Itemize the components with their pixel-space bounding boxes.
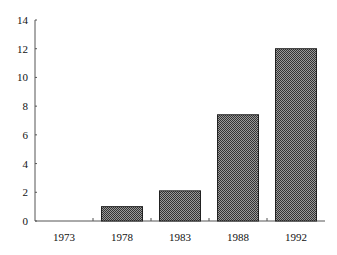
x-tick-label: 1973 [53, 231, 76, 243]
bar-1992 [276, 49, 317, 221]
x-axis: 19731978198319881992 [35, 218, 325, 243]
x-tick-label: 1992 [285, 231, 307, 243]
y-tick-label: 0 [23, 215, 29, 227]
y-tick-label: 12 [17, 43, 28, 55]
bar-1978 [102, 207, 143, 221]
y-tick-label: 6 [23, 129, 29, 141]
y-tick-label: 2 [23, 186, 29, 198]
x-tick-label: 1988 [227, 231, 250, 243]
y-tick-label: 10 [17, 71, 29, 83]
bar-1983 [160, 191, 201, 221]
y-tick-label: 4 [23, 158, 29, 170]
y-tick-label: 14 [17, 14, 29, 26]
bar-chart: 02468101214 19731978198319881992 [0, 0, 337, 255]
bar-1988 [218, 115, 259, 221]
x-tick-label: 1978 [111, 231, 134, 243]
y-axis: 02468101214 [17, 14, 37, 227]
y-tick-label: 8 [23, 100, 29, 112]
bars [102, 49, 317, 221]
x-tick-label: 1983 [169, 231, 192, 243]
